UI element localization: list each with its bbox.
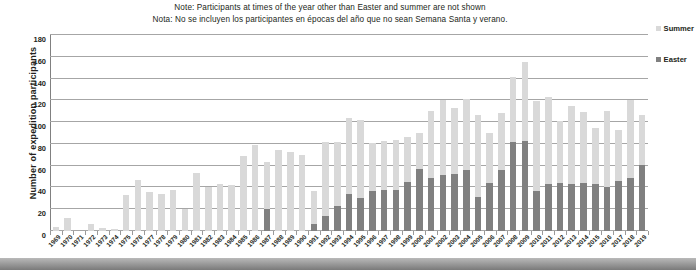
bar-group[interactable]: [167, 35, 179, 231]
bar-group[interactable]: [625, 35, 637, 231]
bar-easter[interactable]: [357, 198, 364, 231]
bar-summer[interactable]: [158, 194, 165, 231]
bar-summer[interactable]: [275, 150, 282, 231]
bar-group[interactable]: [601, 35, 613, 231]
bar-group[interactable]: [636, 35, 648, 231]
bar-summer[interactable]: [182, 209, 189, 231]
bar-group[interactable]: [144, 35, 156, 231]
bar-group[interactable]: [378, 35, 390, 231]
bar-group[interactable]: [296, 35, 308, 231]
bar-group[interactable]: [507, 35, 519, 231]
bar-easter[interactable]: [522, 141, 529, 231]
bar-easter[interactable]: [404, 182, 411, 231]
bar-group[interactable]: [460, 35, 472, 231]
bar-group[interactable]: [273, 35, 285, 231]
bar-easter[interactable]: [615, 181, 622, 231]
bar-group[interactable]: [355, 35, 367, 231]
bar-group[interactable]: [519, 35, 531, 231]
bar-easter[interactable]: [393, 190, 400, 231]
bar-easter[interactable]: [416, 169, 423, 231]
bar-easter[interactable]: [639, 165, 646, 231]
bar-easter[interactable]: [533, 191, 540, 231]
bar-group[interactable]: [449, 35, 461, 231]
bar-easter[interactable]: [369, 191, 376, 231]
bar-group[interactable]: [413, 35, 425, 231]
bar-summer[interactable]: [146, 192, 153, 231]
bar-group[interactable]: [97, 35, 109, 231]
bar-easter[interactable]: [604, 187, 611, 231]
bar-group[interactable]: [390, 35, 402, 231]
bar-group[interactable]: [402, 35, 414, 231]
bar-summer[interactable]: [64, 218, 71, 231]
bar-easter[interactable]: [451, 174, 458, 231]
bar-group[interactable]: [261, 35, 273, 231]
bar-summer[interactable]: [252, 145, 259, 231]
bar-group[interactable]: [554, 35, 566, 231]
bar-summer[interactable]: [299, 155, 306, 231]
bar-easter[interactable]: [463, 170, 470, 231]
bar-easter[interactable]: [322, 216, 329, 231]
bar-group[interactable]: [202, 35, 214, 231]
bar-group[interactable]: [542, 35, 554, 231]
bar-easter[interactable]: [498, 170, 505, 231]
bar-easter[interactable]: [557, 183, 564, 231]
bar-group[interactable]: [285, 35, 297, 231]
bar-summer[interactable]: [240, 156, 247, 231]
bar-easter[interactable]: [545, 184, 552, 231]
bar-easter[interactable]: [428, 178, 435, 231]
bar-easter[interactable]: [486, 183, 493, 231]
bar-group[interactable]: [437, 35, 449, 231]
bar-summer[interactable]: [287, 152, 294, 231]
bar-easter[interactable]: [568, 184, 575, 231]
bar-summer[interactable]: [217, 184, 224, 231]
bar-group[interactable]: [179, 35, 191, 231]
bar-easter[interactable]: [580, 183, 587, 231]
bar-group[interactable]: [578, 35, 590, 231]
bar-easter[interactable]: [264, 209, 271, 231]
bar-group[interactable]: [73, 35, 85, 231]
bar-summer[interactable]: [205, 187, 212, 231]
bar-summer[interactable]: [123, 195, 130, 231]
bar-easter[interactable]: [592, 184, 599, 231]
bar-group[interactable]: [109, 35, 121, 231]
bar-easter[interactable]: [440, 175, 447, 231]
bar-summer[interactable]: [135, 180, 142, 231]
bar-easter[interactable]: [334, 206, 341, 231]
bar-group[interactable]: [331, 35, 343, 231]
bar-group[interactable]: [120, 35, 132, 231]
bar-group[interactable]: [214, 35, 226, 231]
legend-item-summer[interactable]: Summer: [656, 24, 694, 33]
bar-easter[interactable]: [475, 197, 482, 231]
bar-group[interactable]: [132, 35, 144, 231]
plot-area: 020406080100120140160180: [50, 35, 648, 231]
bar-easter[interactable]: [381, 190, 388, 231]
legend-item-easter[interactable]: Easter: [656, 55, 694, 64]
bar-group[interactable]: [238, 35, 250, 231]
bar-group[interactable]: [472, 35, 484, 231]
bar-group[interactable]: [320, 35, 332, 231]
bar-group[interactable]: [308, 35, 320, 231]
bar-group[interactable]: [531, 35, 543, 231]
bar-group[interactable]: [367, 35, 379, 231]
bar-group[interactable]: [496, 35, 508, 231]
bar-group[interactable]: [589, 35, 601, 231]
bar-group[interactable]: [156, 35, 168, 231]
bar-easter[interactable]: [627, 178, 634, 231]
bar-summer[interactable]: [193, 173, 200, 231]
bar-group[interactable]: [62, 35, 74, 231]
bar-group[interactable]: [613, 35, 625, 231]
bar-summer[interactable]: [170, 190, 177, 231]
bar-group[interactable]: [191, 35, 203, 231]
legend-label-summer: Summer: [664, 24, 694, 33]
bar-summer[interactable]: [228, 185, 235, 231]
bar-group[interactable]: [249, 35, 261, 231]
bar-easter[interactable]: [510, 142, 517, 231]
bar-group[interactable]: [50, 35, 62, 231]
bar-group[interactable]: [566, 35, 578, 231]
bar-group[interactable]: [484, 35, 496, 231]
bar-group[interactable]: [226, 35, 238, 231]
bar-group[interactable]: [343, 35, 355, 231]
bar-easter[interactable]: [346, 194, 353, 231]
bar-group[interactable]: [85, 35, 97, 231]
bar-group[interactable]: [425, 35, 437, 231]
